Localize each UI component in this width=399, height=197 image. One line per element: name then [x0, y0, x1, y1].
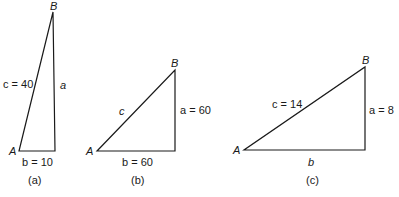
- side-c-label-b: c: [119, 106, 125, 117]
- side-b-label-b: b = 60: [122, 157, 153, 168]
- triangles-canvas: [0, 0, 399, 197]
- vertex-b-label-b: B: [171, 58, 178, 69]
- caption-a: (a): [28, 174, 41, 186]
- side-c-label-c: c = 14: [272, 99, 302, 110]
- side-a-label-a: a: [60, 80, 66, 91]
- vertex-a-label-b: A: [86, 146, 93, 157]
- vertex-b-label-a: B: [50, 1, 57, 12]
- vertex-a-label-a: A: [9, 146, 16, 157]
- side-b-label-a: b = 10: [22, 157, 53, 168]
- side-b-label-c: b: [308, 157, 314, 168]
- vertex-a-label-c: A: [233, 145, 240, 156]
- side-a-label-b: a = 60: [180, 105, 211, 116]
- side-c-text-a: c = 40: [3, 78, 33, 90]
- triangle-c: [244, 67, 365, 150]
- caption-b: (b): [131, 174, 144, 186]
- caption-c: (c): [306, 174, 319, 186]
- triangle-b: [97, 70, 175, 151]
- side-a-label-c: a = 8: [369, 105, 394, 116]
- side-c-label-a: c = 40: [3, 79, 33, 90]
- vertex-b-label-c: B: [362, 55, 369, 66]
